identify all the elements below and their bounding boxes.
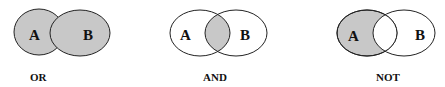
set-a-label: A (180, 27, 191, 43)
set-b-circle (50, 10, 110, 56)
venn-or: A B OR (14, 9, 110, 83)
operator-label-not: NOT (376, 71, 401, 83)
venn-and: A B AND (170, 10, 267, 83)
operator-label-and: AND (203, 71, 227, 83)
set-b-label: B (415, 27, 425, 43)
set-a-label: A (29, 27, 40, 43)
set-b-label: B (240, 27, 250, 43)
venn-diagrams: A B OR A B AND A B NOT (0, 0, 445, 87)
venn-not: A B NOT (337, 10, 435, 83)
set-a-label: A (348, 28, 359, 44)
operator-label-or: OR (30, 71, 48, 83)
set-b-label: B (83, 27, 93, 43)
